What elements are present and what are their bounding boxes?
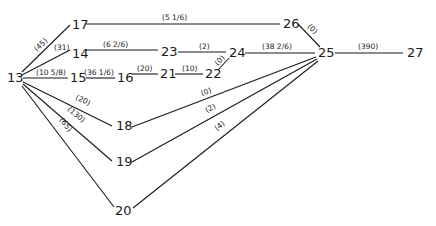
node-25: 25	[318, 45, 335, 60]
node-17: 17	[72, 17, 89, 32]
edge-label-18-25: (0)	[199, 86, 212, 98]
node-23: 23	[161, 44, 178, 59]
node-15: 15	[70, 70, 87, 85]
node-13: 13	[7, 70, 24, 85]
edge-label-15-16: (36 1/6)	[84, 68, 114, 77]
edge-label-20-25: (4)	[213, 119, 227, 133]
edge-label-13-18: (20)	[74, 93, 92, 108]
edge-label-13-15: (10 5/8)	[36, 68, 66, 77]
edge-label-13-17: (45)	[32, 36, 49, 53]
edge-label-21-22: (10)	[182, 64, 197, 73]
diagram-svg: (45) (31) (10 5/8) (20) (130) (65) (5 1/…	[0, 0, 436, 226]
node-21: 21	[160, 66, 177, 81]
edge-label-25-27: (390)	[358, 42, 378, 51]
node-24: 24	[229, 45, 246, 60]
edge-label-13-20: (65)	[57, 116, 73, 134]
node-19: 19	[116, 154, 133, 169]
node-26: 26	[283, 16, 300, 31]
node-22: 22	[205, 66, 222, 81]
edge-label-24-25: (38 2/6)	[262, 42, 292, 51]
node-16: 16	[117, 70, 134, 85]
node-14: 14	[72, 46, 89, 61]
node-18: 18	[116, 118, 133, 133]
node-27: 27	[407, 45, 424, 60]
edge-label-23-24: (2)	[199, 42, 210, 51]
network-diagram: (45) (31) (10 5/8) (20) (130) (65) (5 1/…	[0, 0, 436, 226]
edge-label-13-14: (31)	[54, 43, 69, 52]
edge-20-25	[133, 61, 318, 208]
edge-label-17-26: (5 1/6)	[162, 13, 187, 22]
node-20: 20	[115, 203, 132, 218]
edge-label-19-25: (2)	[204, 102, 218, 115]
edge-label-16-21: (20)	[137, 64, 152, 73]
edge-label-14-23: (6 2/6)	[103, 40, 128, 49]
